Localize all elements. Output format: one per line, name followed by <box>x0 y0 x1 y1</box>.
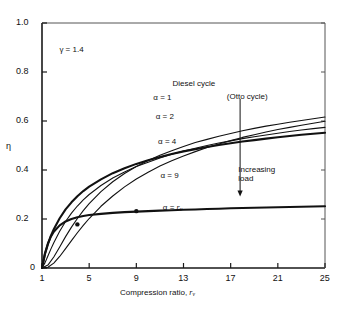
curve-alpha-9 <box>42 121 325 268</box>
y-tick-label: 0.6 <box>16 115 29 125</box>
arrow-head <box>238 191 243 197</box>
chart-canvas <box>0 0 350 311</box>
gamma-note: γ = 1.4 <box>59 45 83 54</box>
x-tick-label: 25 <box>320 273 330 283</box>
curve-alpha-1 <box>42 133 325 268</box>
x-tick-label: 5 <box>87 273 92 283</box>
chart-figure: 00.20.40.60.81.0 15913172125 η Compressi… <box>0 0 350 311</box>
curve-label-alpha-2: α = 2 <box>156 112 174 121</box>
x-tick-label: 17 <box>225 273 235 283</box>
x-tick-label: 21 <box>273 273 283 283</box>
x-tick-label: 9 <box>134 273 139 283</box>
increasing-load-note: Increasingload <box>238 165 275 183</box>
curve-label-alpha-1: α = 1 <box>153 93 171 102</box>
curve-label-alpha-4: α = 4 <box>158 137 176 146</box>
x-axis-title: Compression ratio, rv <box>120 288 195 297</box>
x-tick-label: 13 <box>178 273 188 283</box>
curve-label-alpha-9: α = 9 <box>160 171 178 180</box>
y-tick-label: 0.8 <box>16 66 29 76</box>
x-axis-title-text: Compression ratio, <box>120 288 189 297</box>
y-tick-label: 0.2 <box>16 213 29 223</box>
y-tick-label: 1.0 <box>16 17 29 27</box>
curves-group <box>42 117 325 268</box>
intersection-alpha2 <box>75 222 79 226</box>
y-tick-label: 0 <box>30 262 35 272</box>
x-axis-title-sub: v <box>192 291 195 297</box>
ticks-group <box>42 23 325 268</box>
x-tick-label: 1 <box>39 273 44 283</box>
family-title: Diesel cycle <box>173 79 216 88</box>
curve-alpha-4 <box>42 117 325 268</box>
y-axis-title: η <box>6 141 11 151</box>
curve-label-alpha-rv: α = rv <box>163 203 182 212</box>
increasing-line2: load <box>238 174 253 183</box>
increasing-line1: Increasing <box>238 165 275 174</box>
otto-note: (Otto cycle) <box>227 92 268 101</box>
curve-alpha-2 <box>42 127 325 268</box>
curve-alpha-rv <box>42 206 325 268</box>
y-tick-label: 0.4 <box>16 164 29 174</box>
axes-group <box>42 23 325 268</box>
intersection-alpha4 <box>134 209 138 213</box>
